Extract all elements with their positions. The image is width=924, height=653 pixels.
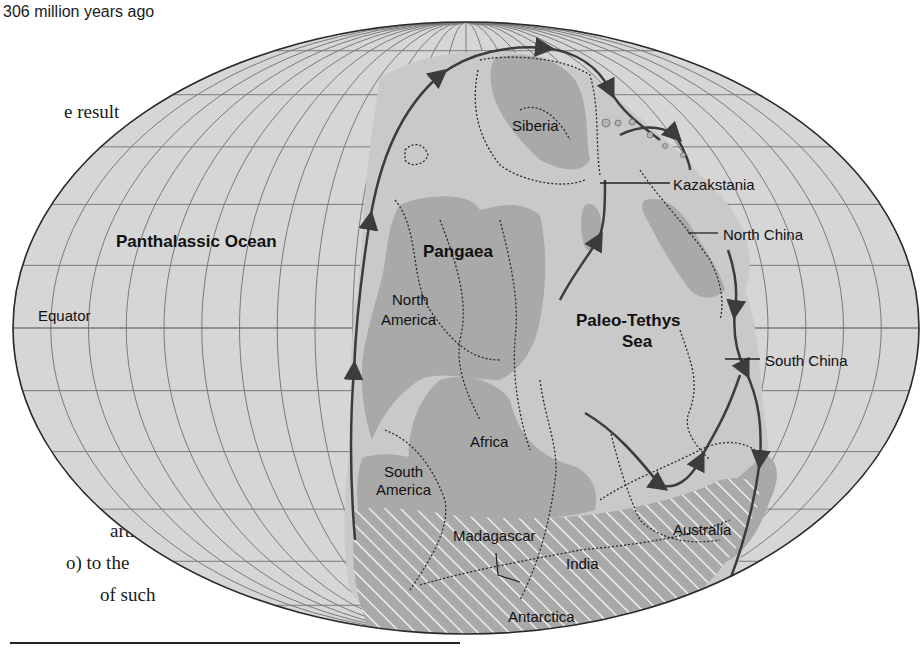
label-equator: Equator [38,307,91,324]
figure-bottom-rule [10,642,460,644]
label-india: India [566,555,599,572]
label-pangaea: Pangaea [423,242,493,261]
label-kazakstania: Kazakstania [673,176,755,193]
label-north-china: North China [723,226,804,243]
map-svg: Equator Panthalassic Ocean Pangaea Paleo… [0,0,924,653]
label-africa: Africa [470,433,509,450]
label-south-america-2: America [376,481,432,498]
label-south-america-1: South [384,463,423,480]
label-sea: Sea [622,332,653,351]
label-panthalassic-ocean: Panthalassic Ocean [116,232,277,251]
paleogeographic-map-figure: 306 million years ago e result also ds s… [0,0,924,653]
label-south-china: South China [765,352,848,369]
label-madagascar: Madagascar [453,527,536,544]
label-paleo-tethys: Paleo-Tethys [576,311,681,330]
label-antarctica: Antarctica [508,608,575,625]
label-siberia: Siberia [512,117,559,134]
label-north-america-1: North [392,291,429,308]
label-australia: Australia [673,521,732,538]
label-north-america-2: America [381,311,437,328]
